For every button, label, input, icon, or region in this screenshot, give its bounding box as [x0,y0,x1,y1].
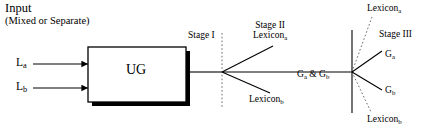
stage-2-label: Stage II [253,20,287,30]
trunk-ga-gb-label: Ga & Gb [297,69,329,79]
trunk-g-a-text: G [297,69,304,79]
stage-3-gb-sub: b [392,89,395,96]
stage-3-ga-text: G [385,49,392,59]
stage-2-lexicon-a-text: Lexicon [253,30,284,40]
stage-3-label: Stage III [379,29,412,39]
input-lb-text: L [16,80,23,92]
stage-3-ga-label: Ga [385,49,395,59]
input-la-sub: a [23,61,27,70]
input-la-text: L [16,56,23,68]
stage-3-gb-label: Gb [385,85,395,95]
stage-2-lexicon-b-label: Lexiconb [249,94,284,104]
stage-3-lexicon-a-sub: a [398,7,401,14]
trunk-amp: & [307,69,319,79]
diagram-canvas: Input (Mixed or Separate) La Lb UG Stage… [0,0,431,132]
input-label-lb: Lb [16,80,27,92]
input-lb-sub: b [23,85,27,94]
branch-stage2-lexicon-b [222,72,270,93]
input-label-la: La [16,56,27,68]
stage-1-label: Stage I [188,30,215,40]
branch-stage3-lexicon-a [352,17,372,72]
ug-box-label: UG [126,62,146,77]
stage-3-lexicon-b-label: Lexiconb [367,114,402,124]
branch-stage3-ga [352,51,382,72]
input-subtitle: (Mixed or Separate) [5,15,90,26]
trunk-g-b-sub: b [326,73,329,80]
branch-stage3-gb [352,72,382,90]
stage-3-ga-sub: a [392,53,395,60]
stage-3-lexicon-b-text: Lexicon [367,114,398,124]
input-title: Input [5,2,31,16]
stage-2-group: Stage II Lexicona [253,20,287,41]
stage-3-lexicon-a-label: Lexicona [367,3,401,13]
stage-3-gb-text: G [385,85,392,95]
stage-3-lexicon-a-text: Lexicon [367,3,398,13]
stage-2-lexicon-a-label: Lexicona [253,30,287,40]
trunk-g-b-text: G [319,69,326,79]
stage-2-lexicon-a-sub: a [284,34,287,41]
stage-2-lexicon-b-text: Lexicon [249,94,280,104]
stage-2-lexicon-b-sub: b [280,98,283,105]
stage-3-lexicon-b-sub: b [398,118,401,125]
branch-stage2-lexicon-a [222,46,273,72]
